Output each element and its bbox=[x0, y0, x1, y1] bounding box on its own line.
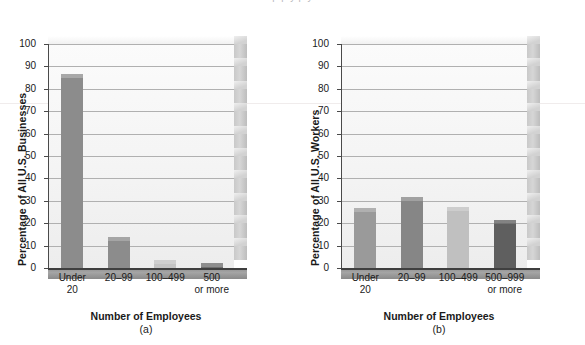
y-axis-tick-label: 10 bbox=[303, 240, 329, 251]
y-axis-tick-label: 80 bbox=[10, 83, 36, 94]
bar-top-face bbox=[447, 207, 469, 211]
chart-panel-a: Percentage of All U.S. Businesses 010203… bbox=[0, 14, 292, 345]
x-axis-title-b: Number of Employees bbox=[293, 310, 585, 322]
panel-caption-a: (a) bbox=[0, 323, 292, 335]
x-axis-title-a: Number of Employees bbox=[0, 310, 292, 322]
y-axis-tick-label: 0 bbox=[10, 262, 36, 273]
side-wall-notch bbox=[527, 148, 540, 156]
y-axis-tick-label: 70 bbox=[10, 105, 36, 116]
y-axis-tick-label: 100 bbox=[10, 38, 36, 49]
x-label-line-2: or more bbox=[182, 284, 242, 296]
x-label-line-1: 500–999 bbox=[485, 272, 524, 283]
side-wall-notch bbox=[527, 81, 540, 89]
y-axis-tick-label: 40 bbox=[303, 172, 329, 183]
y-axis-tick-label: 20 bbox=[10, 217, 36, 228]
bar bbox=[447, 211, 469, 268]
side-wall-notch bbox=[234, 103, 247, 111]
bar-top-face bbox=[494, 220, 516, 224]
plot-area-b bbox=[341, 36, 539, 268]
plot-top-cap-a bbox=[48, 36, 234, 44]
clipped-top-caption: p p y p y bbox=[0, 0, 585, 10]
bar-top-face bbox=[61, 74, 83, 78]
x-label-line-1: 100–499 bbox=[146, 272, 185, 283]
x-axis-tick-labels-b: Under2020–99100–499500–999or more bbox=[341, 272, 539, 306]
y-axis-tick-label: 50 bbox=[303, 150, 329, 161]
side-wall-notch bbox=[527, 215, 540, 223]
x-label-line-2: or more bbox=[475, 284, 535, 296]
plot-top-cap-b bbox=[341, 36, 527, 44]
side-wall-notch bbox=[527, 58, 540, 66]
bar-top-face bbox=[354, 208, 376, 212]
y-axis-tick-label: 10 bbox=[10, 240, 36, 251]
side-wall-notch bbox=[234, 148, 247, 156]
x-axis-tick-label: 500or more bbox=[182, 272, 242, 296]
side-wall-notch bbox=[527, 170, 540, 178]
side-wall-notch bbox=[234, 215, 247, 223]
y-axis-tick-label: 30 bbox=[303, 195, 329, 206]
x-label-line-1: 100–499 bbox=[439, 272, 478, 283]
bar bbox=[494, 224, 516, 268]
side-wall-notch bbox=[234, 170, 247, 178]
y-axis-tick-label: 50 bbox=[10, 150, 36, 161]
x-label-line-2: 20 bbox=[335, 284, 395, 296]
y-axis-tick-labels-a: 0102030405060708090100 bbox=[10, 36, 36, 268]
bar-series-a bbox=[49, 44, 234, 268]
bar-top-face bbox=[108, 237, 130, 241]
bar bbox=[108, 241, 130, 268]
side-wall-notch bbox=[527, 193, 540, 201]
chart-panel-b: Percentage of All U.S. Workers 010203040… bbox=[293, 14, 585, 345]
y-axis-tick-label: 60 bbox=[10, 128, 36, 139]
x-label-line-1: 20–99 bbox=[398, 272, 426, 283]
plot-baseline-b bbox=[341, 268, 540, 270]
y-axis-tick-label: 90 bbox=[10, 60, 36, 71]
side-wall-notch bbox=[234, 36, 247, 44]
y-axis-tick-label: 100 bbox=[303, 38, 329, 49]
side-wall-notch bbox=[234, 126, 247, 134]
side-wall-notch bbox=[527, 126, 540, 134]
y-axis-tick-label: 80 bbox=[303, 83, 329, 94]
x-label-line-2: 20 bbox=[42, 284, 102, 296]
y-axis-tick-label: 30 bbox=[10, 195, 36, 206]
side-wall-notch bbox=[527, 103, 540, 111]
bar bbox=[61, 78, 83, 268]
y-axis-tick-labels-b: 0102030405060708090100 bbox=[303, 36, 329, 268]
side-wall-notch bbox=[234, 58, 247, 66]
panel-caption-b: (b) bbox=[293, 323, 585, 335]
bar bbox=[401, 201, 423, 268]
side-wall-notch bbox=[234, 238, 247, 246]
side-wall-notch bbox=[234, 81, 247, 89]
bar-top-face bbox=[201, 263, 223, 267]
x-label-line-1: 500 bbox=[203, 272, 220, 283]
side-wall-notch bbox=[527, 238, 540, 246]
side-wall-notch bbox=[527, 36, 540, 44]
y-axis-tick-label: 0 bbox=[303, 262, 329, 273]
y-axis-tick-label: 70 bbox=[303, 105, 329, 116]
y-axis-tick-label: 60 bbox=[303, 128, 329, 139]
bar-top-face bbox=[154, 260, 176, 264]
x-axis-tick-label: 500–999or more bbox=[475, 272, 535, 296]
x-label-line-1: Under bbox=[352, 272, 379, 283]
bar-top-face bbox=[401, 197, 423, 201]
bar bbox=[354, 212, 376, 268]
plot-area-a bbox=[48, 36, 246, 268]
plot-baseline-a bbox=[48, 268, 247, 270]
y-axis-tick-label: 90 bbox=[303, 60, 329, 71]
y-axis-tick-label: 40 bbox=[10, 172, 36, 183]
bar-series-b bbox=[342, 44, 527, 268]
side-wall-notch bbox=[234, 193, 247, 201]
x-label-line-1: 20–99 bbox=[105, 272, 133, 283]
x-axis-tick-labels-a: Under2020–99100–499500or more bbox=[48, 272, 246, 306]
x-label-line-1: Under bbox=[59, 272, 86, 283]
y-axis-tick-label: 20 bbox=[303, 217, 329, 228]
